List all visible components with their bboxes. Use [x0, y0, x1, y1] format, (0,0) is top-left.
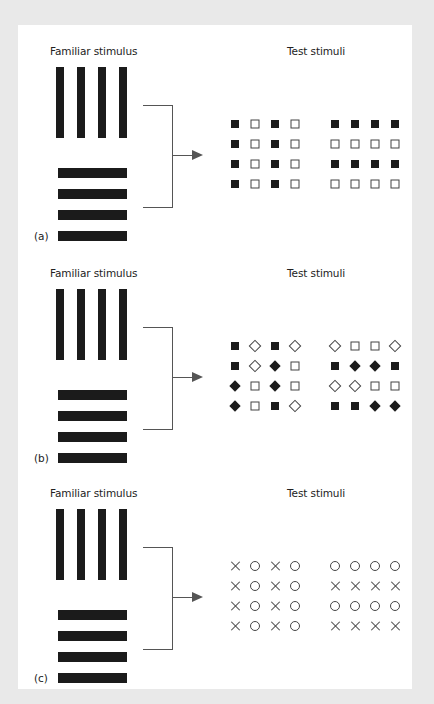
grid-cell [325, 616, 345, 636]
grid-cell [265, 356, 285, 376]
grid-cell [345, 396, 365, 416]
test-grid-columns [225, 336, 305, 416]
cross-icon [350, 581, 360, 591]
grid-cell [385, 174, 405, 194]
grid-cell [365, 596, 385, 616]
panel-label: (c) [34, 672, 48, 684]
cross-icon [390, 621, 400, 631]
grid-cell [285, 154, 305, 174]
panel-label: (b) [34, 452, 49, 464]
grid-cell [385, 376, 405, 396]
cross-icon [270, 621, 280, 631]
cross-icon [230, 581, 240, 591]
horizontal-bar [58, 432, 127, 442]
grid-cell [365, 114, 385, 134]
open-square-icon [251, 382, 260, 391]
open-square-icon [351, 342, 360, 351]
grid-cell [385, 396, 405, 416]
grid-cell [265, 576, 285, 596]
vertical-bar [98, 509, 106, 580]
grid-cell [245, 114, 265, 134]
open-diamond-icon [289, 340, 302, 353]
filled-square-icon [331, 160, 339, 168]
grid-cell [285, 396, 305, 416]
grid-cell [245, 596, 265, 616]
grid-cell [225, 336, 245, 356]
vertical-bar [98, 67, 106, 138]
grid-cell [285, 356, 305, 376]
grid-cell [225, 556, 245, 576]
grid-cell [345, 134, 365, 154]
grid-cell [265, 596, 285, 616]
vertical-bar [56, 509, 64, 580]
test-grid-rows [325, 336, 405, 416]
vertical-bar [98, 289, 106, 360]
filled-square-icon [351, 402, 359, 410]
grid-cell [385, 356, 405, 376]
open-square-icon [351, 180, 360, 189]
grid-cell [325, 336, 345, 356]
vertical-bar [77, 509, 85, 580]
grid-cell [365, 556, 385, 576]
grid-cell [345, 114, 365, 134]
horizontal-bar [58, 652, 127, 662]
cross-icon [330, 621, 340, 631]
open-square-icon [291, 120, 300, 129]
grid-cell [265, 396, 285, 416]
open-square-icon [391, 180, 400, 189]
filled-square-icon [271, 160, 279, 168]
grid-cell [325, 154, 345, 174]
filled-square-icon [371, 160, 379, 168]
circle-icon [250, 601, 260, 611]
grid-cell [325, 576, 345, 596]
grid-cell [285, 616, 305, 636]
grid-cell [345, 154, 365, 174]
filled-square-icon [231, 120, 239, 128]
grid-cell [265, 336, 285, 356]
open-square-icon [291, 180, 300, 189]
open-square-icon [251, 140, 260, 149]
grid-cell [345, 576, 365, 596]
familiar-stimulus-title: Familiar stimulus [50, 267, 137, 279]
filled-diamond-icon [229, 380, 240, 391]
test-stimuli-title: Test stimuli [287, 45, 345, 57]
grid-cell [225, 154, 245, 174]
circle-icon [290, 561, 300, 571]
grid-cell [225, 576, 245, 596]
cross-icon [230, 621, 240, 631]
grid-cell [385, 134, 405, 154]
grid-cell [225, 616, 245, 636]
grid-cell [365, 376, 385, 396]
grid-cell [285, 114, 305, 134]
filled-square-icon [391, 120, 399, 128]
filled-square-icon [271, 180, 279, 188]
cross-icon [370, 621, 380, 631]
grid-cell [285, 556, 305, 576]
circle-icon [290, 621, 300, 631]
test-grid-columns [225, 114, 305, 194]
figure-panel-c: Familiar stimulus Test stimuli (c) [0, 475, 434, 697]
bracket-connector [143, 547, 173, 650]
grid-cell [385, 616, 405, 636]
filled-square-icon [391, 362, 399, 370]
circle-icon [370, 561, 380, 571]
vertical-bar [56, 67, 64, 138]
filled-diamond-icon [229, 400, 240, 411]
open-square-icon [331, 180, 340, 189]
panel-label: (a) [34, 230, 49, 242]
grid-cell [285, 596, 305, 616]
open-square-icon [251, 180, 260, 189]
filled-square-icon [331, 402, 339, 410]
horizontal-bar [58, 231, 127, 241]
open-diamond-icon [329, 340, 342, 353]
grid-cell [345, 556, 365, 576]
grid-cell [285, 376, 305, 396]
grid-cell [385, 154, 405, 174]
grid-cell [225, 174, 245, 194]
circle-icon [370, 601, 380, 611]
vertical-bar [119, 67, 127, 138]
filled-diamond-icon [269, 380, 280, 391]
grid-cell [345, 596, 365, 616]
filled-square-icon [271, 402, 279, 410]
open-diamond-icon [329, 380, 342, 393]
